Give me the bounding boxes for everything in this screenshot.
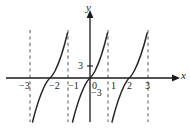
x-axis-arrowhead (172, 75, 180, 82)
y-axis-label: y (86, 2, 91, 13)
x-tick-label-neg3: −3 (19, 81, 30, 91)
x-tick-label-3: 3 (145, 81, 150, 91)
graph-figure: y x −3 −2 −1 0 1 2 3 3 −3 (0, 0, 190, 133)
x-tick-label-neg1: −1 (68, 81, 79, 91)
x-axis-label: x (181, 70, 186, 81)
coordinate-plot (0, 0, 190, 133)
y-tick-label-neg3: −3 (91, 88, 102, 98)
x-tick-label-2: 2 (127, 81, 132, 91)
x-tick-label-1: 1 (111, 81, 116, 91)
y-tick-label-3: 3 (78, 61, 83, 71)
x-tick-label-neg2: −2 (49, 81, 60, 91)
